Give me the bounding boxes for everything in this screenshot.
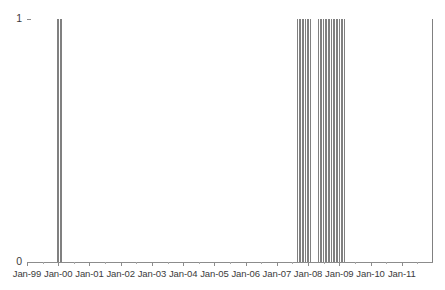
x-minor-tick	[105, 262, 106, 264]
x-tick	[27, 262, 28, 266]
x-tick	[89, 262, 90, 266]
x-minor-tick	[136, 262, 137, 264]
x-tick-label: Jan-05	[200, 268, 228, 279]
bar	[318, 19, 320, 262]
bar	[325, 19, 327, 262]
x-tick-label: Jan-01	[75, 268, 103, 279]
bar	[333, 19, 335, 262]
bar	[299, 19, 301, 262]
x-tick	[121, 262, 122, 266]
x-minor-tick	[199, 262, 200, 264]
x-minor-tick	[43, 262, 44, 264]
x-minor-tick	[292, 262, 293, 264]
bar	[336, 19, 338, 262]
y-tick-1	[27, 19, 31, 20]
x-minor-tick	[168, 262, 169, 264]
bar	[57, 19, 59, 262]
bar	[310, 19, 312, 262]
x-minor-tick	[261, 262, 262, 264]
bar	[60, 19, 62, 262]
x-tick-label: Jan-03	[138, 268, 166, 279]
x-tick-label: Jan-10	[356, 268, 384, 279]
x-minor-tick	[230, 262, 231, 264]
x-tick-label: Jan-11	[388, 268, 416, 279]
x-tick-label: Jan-07	[263, 268, 291, 279]
x-tick-label: Jan-99	[13, 268, 41, 279]
x-tick	[402, 262, 403, 266]
x-tick	[183, 262, 184, 266]
x-minor-tick	[386, 262, 387, 264]
bar	[339, 19, 341, 262]
y-tick-label-1: 1	[0, 12, 22, 24]
x-tick	[214, 262, 215, 266]
x-tick-label: Jan-02	[106, 268, 134, 279]
x-minor-tick	[74, 262, 75, 264]
bar	[331, 19, 333, 262]
x-minor-tick	[355, 262, 356, 264]
x-tick	[371, 262, 372, 266]
x-tick	[58, 262, 59, 266]
x-tick-label: Jan-09	[325, 268, 353, 279]
x-tick-label: Jan-06	[231, 268, 259, 279]
x-tick-label: Jan-04	[169, 268, 197, 279]
bar	[344, 19, 346, 262]
plot-area	[27, 19, 433, 262]
bar	[305, 19, 307, 262]
bar	[320, 19, 322, 262]
x-tick	[152, 262, 153, 266]
bar	[341, 19, 343, 262]
x-tick	[277, 262, 278, 266]
bar	[297, 19, 299, 262]
x-tick	[246, 262, 247, 266]
x-tick	[308, 262, 309, 266]
bar	[432, 19, 433, 262]
bar	[302, 19, 304, 262]
bar	[307, 19, 309, 262]
x-tick-label: Jan-08	[294, 268, 322, 279]
x-tick	[339, 262, 340, 266]
binary-indicator-chart: 1 0 Jan-99Jan-00Jan-01Jan-02Jan-03Jan-04…	[0, 0, 445, 290]
x-minor-tick	[324, 262, 325, 264]
y-tick-label-0: 0	[0, 255, 22, 267]
x-minor-tick	[417, 262, 418, 264]
bar	[323, 19, 325, 262]
bar	[328, 19, 330, 262]
x-tick-label: Jan-00	[44, 268, 72, 279]
